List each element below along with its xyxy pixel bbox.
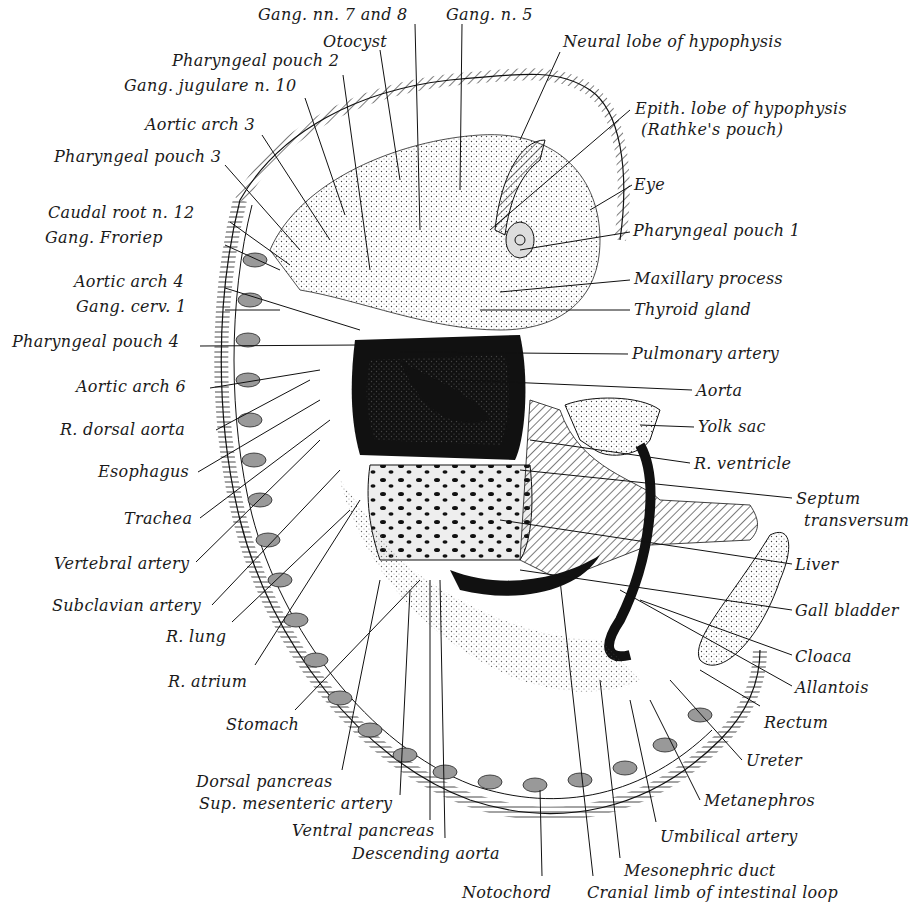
label-epith-lobe: Epith. lobe of hypophysis xyxy=(635,100,847,118)
label-gang-jugulare: Gang. jugulare n. 10 xyxy=(124,77,297,95)
label-septum: Septum xyxy=(796,490,860,508)
label-r-lung: R. lung xyxy=(166,628,226,646)
label-umbilical-artery: Umbilical artery xyxy=(660,828,798,846)
label-aortic-arch-3: Aortic arch 3 xyxy=(145,116,255,134)
label-eye: Eye xyxy=(634,176,665,194)
label-notochord: Notochord xyxy=(462,884,551,902)
label-vertebral-artery: Vertebral artery xyxy=(54,555,189,573)
label-esophagus: Esophagus xyxy=(98,463,189,481)
liver xyxy=(368,465,532,560)
label-metanephros: Metanephros xyxy=(704,792,815,810)
label-ventral-pancreas: Ventral pancreas xyxy=(292,822,434,840)
label-gang-cerv: Gang. cerv. 1 xyxy=(76,298,187,316)
label-r-dorsal-aorta: R. dorsal aorta xyxy=(60,421,185,439)
label-allantois: Allantois xyxy=(795,679,869,697)
label-gall-bladder: Gall bladder xyxy=(795,602,899,620)
label-pharyngeal-pouch-3: Pharyngeal pouch 3 xyxy=(54,148,221,166)
label-r-atrium: R. atrium xyxy=(168,673,247,691)
label-thyroid-gland: Thyroid gland xyxy=(634,301,751,319)
label-aortic-arch-4: Aortic arch 4 xyxy=(74,273,184,291)
eye-shape xyxy=(506,222,534,258)
label-gang-froriep: Gang. Froriep xyxy=(45,229,163,247)
label-rectum: Rectum xyxy=(764,714,828,732)
label-sup-mesenteric: Sup. mesenteric artery xyxy=(199,795,392,813)
label-pharyngeal-pouch-4: Pharyngeal pouch 4 xyxy=(12,333,179,351)
label-aorta: Aorta xyxy=(696,382,742,400)
label-pharyngeal-pouch-1: Pharyngeal pouch 1 xyxy=(633,222,800,240)
label-yolk-sac: Yolk sac xyxy=(698,418,766,436)
label-rathkes-pouch: (Rathke's pouch) xyxy=(641,121,783,139)
label-transversum: transversum xyxy=(804,512,909,530)
label-subclavian-artery: Subclavian artery xyxy=(52,597,201,615)
label-ureter: Ureter xyxy=(746,752,802,770)
label-aortic-arch-6: Aortic arch 6 xyxy=(76,378,186,396)
label-caudal-root: Caudal root n. 12 xyxy=(48,204,194,222)
label-trachea: Trachea xyxy=(124,510,192,528)
label-pulmonary-artery: Pulmonary artery xyxy=(632,345,779,363)
label-stomach: Stomach xyxy=(226,716,299,734)
label-gang-nn-7-8: Gang. nn. 7 and 8 xyxy=(258,6,408,24)
label-liver: Liver xyxy=(795,556,838,574)
label-descending-aorta: Descending aorta xyxy=(352,845,500,863)
embryo-diagram: Gang. nn. 7 and 8 Gang. n. 5 Otocyst Neu… xyxy=(0,0,923,916)
label-mesonephric-duct: Mesonephric duct xyxy=(624,862,776,880)
label-neural-lobe: Neural lobe of hypophysis xyxy=(563,33,782,51)
label-cranial-limb: Cranial limb of intestinal loop xyxy=(587,884,838,902)
label-gang-n-5: Gang. n. 5 xyxy=(446,6,533,24)
label-maxillary-process: Maxillary process xyxy=(634,270,783,288)
label-otocyst: Otocyst xyxy=(323,33,387,51)
label-r-ventricle: R. ventricle xyxy=(694,455,791,473)
label-cloaca: Cloaca xyxy=(795,648,852,666)
head-region xyxy=(270,135,600,330)
label-dorsal-pancreas: Dorsal pancreas xyxy=(196,773,332,791)
label-pharyngeal-pouch-2: Pharyngeal pouch 2 xyxy=(172,52,339,70)
